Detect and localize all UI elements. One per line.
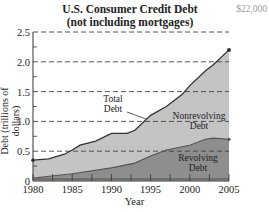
total-debt-label: Total	[103, 94, 123, 104]
total-end-dot	[227, 48, 231, 52]
revolving-end-dot	[227, 138, 230, 141]
y-tick-label: 1.5	[17, 87, 30, 98]
total-debt-leader	[127, 112, 146, 119]
revolving-label: Debt	[189, 163, 208, 173]
x-tick-label: 1990	[101, 184, 122, 195]
y-tick-label: 2.0	[17, 57, 30, 68]
x-tick-label: 1985	[62, 184, 83, 195]
x-tick-label: 2005	[219, 184, 240, 195]
y-tick-label: 0	[25, 176, 30, 187]
y-tick-label: 0.5	[17, 146, 30, 157]
y-tick-label: 1.0	[17, 116, 30, 127]
nonrevolving-label: Nonrevolving	[173, 111, 226, 121]
chart-plot: 19801985199019952000200500.51.01.52.02.5…	[0, 0, 269, 212]
total-debt-label: Debt	[104, 104, 123, 114]
nonrevolving-label: Debt	[190, 121, 209, 131]
x-tick-label: 2000	[179, 184, 200, 195]
revolving-label: Revolving	[178, 153, 218, 163]
y-tick-label: 2.5	[17, 27, 30, 38]
x-tick-label: 1995	[140, 184, 161, 195]
